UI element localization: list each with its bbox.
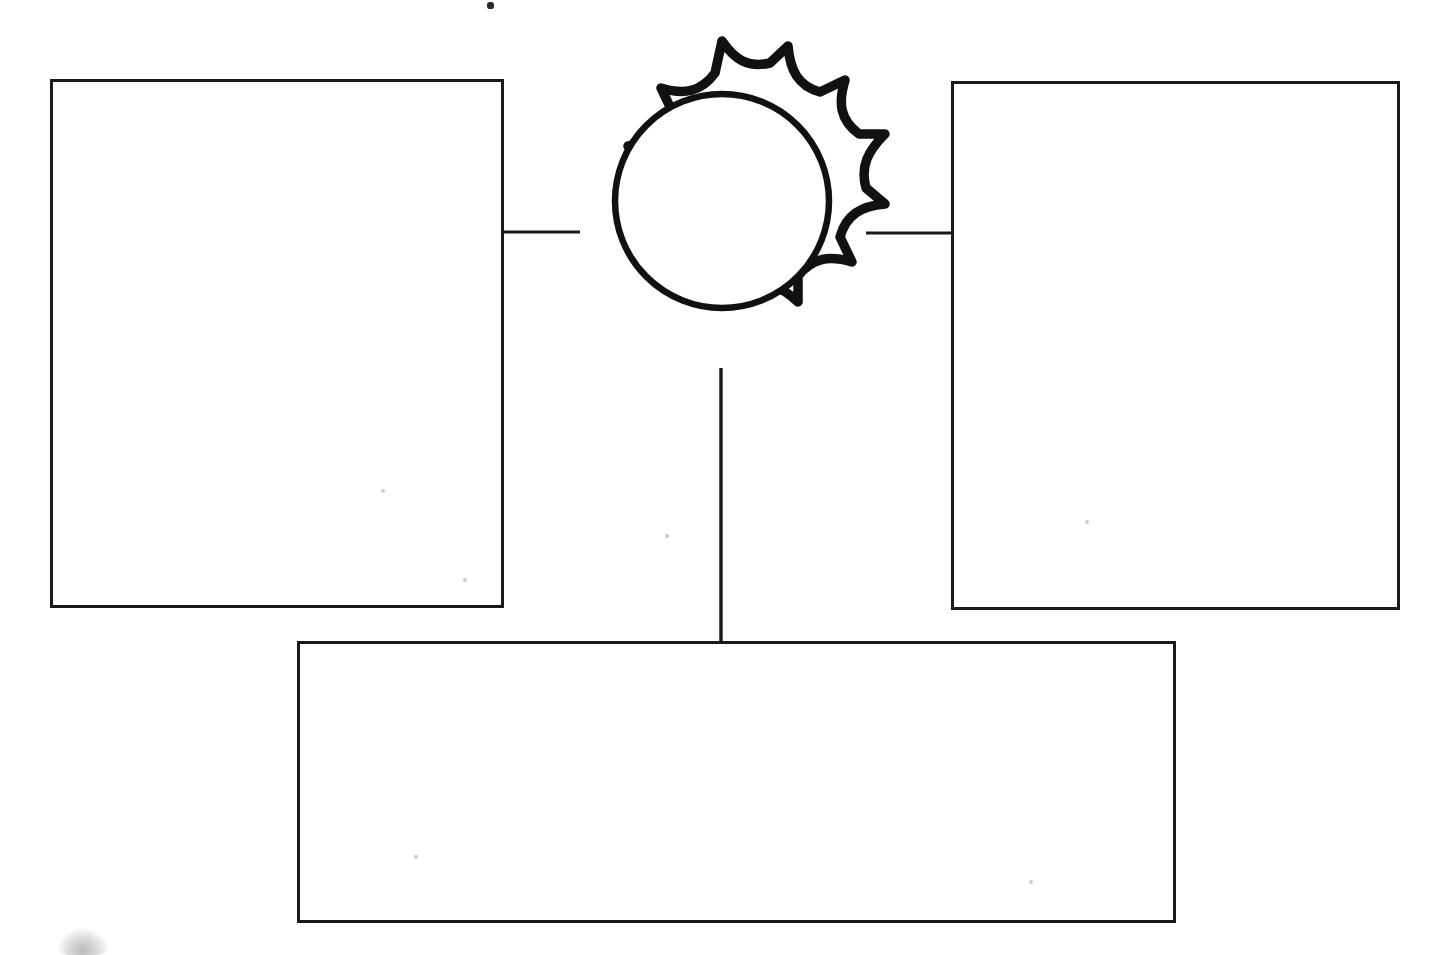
bottom-box-label — [299, 643, 300, 644]
left-box[interactable] — [50, 79, 504, 608]
right-box-label — [953, 83, 954, 84]
worksheet-page: Blank Graphic Organizer Worksheet — [0, 0, 1441, 955]
right-box[interactable] — [951, 81, 1400, 610]
sun-inner-circle — [615, 94, 829, 308]
faint-dot-bottom-box-2 — [1029, 880, 1033, 884]
speck-top — [487, 2, 494, 9]
faint-dot-right-box — [1085, 520, 1089, 524]
faint-dot-left-box — [381, 489, 385, 493]
bottom-box[interactable] — [297, 641, 1176, 923]
left-box-label — [52, 81, 53, 82]
faint-dot-center — [665, 534, 669, 538]
faint-dot-bottom-box — [414, 855, 418, 859]
faint-dot-left-box-2 — [463, 578, 467, 582]
